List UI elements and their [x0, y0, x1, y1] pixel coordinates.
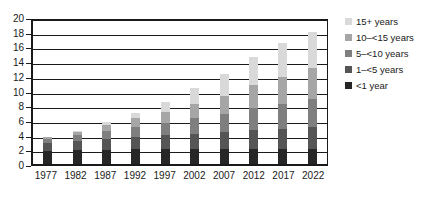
bar-segment	[190, 118, 199, 133]
bar-segment	[131, 118, 140, 126]
bar-segment	[249, 57, 258, 85]
bar-segment	[249, 130, 258, 149]
bar-segment	[249, 108, 258, 130]
bar-segment	[278, 129, 287, 150]
bar-segment	[161, 135, 170, 149]
legend-label: 5–<10 years	[356, 48, 409, 59]
bar-segment	[161, 102, 170, 112]
bar-segment	[43, 143, 52, 150]
bar-segment	[278, 104, 287, 129]
bar-segment	[308, 68, 317, 99]
bar-segment	[161, 123, 170, 135]
legend-label: 10–<15 years	[356, 32, 414, 43]
legend-item: 5–<10 years	[345, 46, 426, 61]
y-tick-label: 6	[18, 117, 24, 127]
bar-column	[43, 20, 52, 164]
bar-segment	[43, 151, 52, 164]
bar-column	[190, 20, 199, 164]
bar-column	[131, 20, 140, 164]
x-tick-label: 1997	[150, 170, 180, 182]
bar-segment	[308, 149, 317, 164]
y-tick-label: 10	[13, 88, 24, 98]
legend-swatch-icon	[345, 82, 352, 89]
x-tick-label: 2002	[180, 170, 210, 182]
bar-segment	[278, 149, 287, 164]
bar-segment	[161, 149, 170, 164]
bar-segment	[220, 132, 229, 149]
x-axis: 1977198219871992199720022007201220172022	[31, 170, 328, 182]
legend-swatch-icon	[345, 66, 352, 73]
legend-swatch-icon	[345, 18, 352, 25]
y-tick-label: 8	[18, 102, 24, 112]
bar-column	[278, 20, 287, 164]
legend-swatch-icon	[345, 34, 352, 41]
y-tick-label: 18	[13, 29, 24, 39]
legend-item: 10–<15 years	[345, 30, 426, 45]
legend-item: 15+ years	[345, 14, 426, 29]
bar-column	[249, 20, 258, 164]
bar-column	[161, 20, 170, 164]
bar-segment	[102, 139, 111, 150]
bar-segment	[161, 112, 170, 123]
x-tick-label: 2007	[209, 170, 239, 182]
bar-segment	[308, 99, 317, 127]
y-tick-label: 16	[13, 43, 24, 53]
x-tick-label: 1992	[120, 170, 150, 182]
bar-segment	[220, 114, 229, 132]
bar-segment	[190, 134, 199, 149]
bar-segment	[190, 104, 199, 119]
bar-segment	[249, 149, 258, 164]
bar-segment	[102, 131, 111, 139]
bar-segment	[220, 149, 229, 164]
bar-segment	[278, 77, 287, 104]
stacked-bar-chart: 02468101214161820 1977198219871992199720…	[0, 0, 426, 205]
bar-column	[308, 20, 317, 164]
y-tick-label: 14	[13, 58, 24, 68]
bar-segment	[131, 137, 140, 149]
bar-segment	[73, 150, 82, 164]
legend-item: 1–<5 years	[345, 62, 426, 77]
y-tick-label: 4	[18, 132, 24, 142]
y-tick-label: 2	[18, 146, 24, 156]
x-tick-label: 1977	[31, 170, 61, 182]
bar-segment	[220, 96, 229, 114]
y-tick-label: 0	[18, 161, 24, 171]
legend-swatch-icon	[345, 50, 352, 57]
y-tick-mark	[26, 166, 31, 167]
bar-segment	[102, 150, 111, 164]
bar-segment	[131, 149, 140, 164]
y-tick-label: 20	[13, 14, 24, 24]
y-axis: 02468101214161820	[0, 12, 24, 166]
bar-column	[220, 20, 229, 164]
bar-segment	[278, 43, 287, 77]
bar-segment	[308, 127, 317, 149]
bars-layer	[33, 20, 327, 164]
legend: 15+ years10–<15 years5–<10 years1–<5 yea…	[345, 14, 426, 94]
bar-segment	[190, 88, 199, 103]
bar-segment	[131, 127, 140, 137]
bar-segment	[220, 74, 229, 95]
bar-segment	[190, 149, 199, 164]
legend-item: <1 year	[345, 78, 426, 93]
legend-label: 15+ years	[356, 16, 398, 27]
bar-column	[73, 20, 82, 164]
bar-segment	[73, 141, 82, 150]
x-tick-label: 1982	[61, 170, 91, 182]
x-tick-label: 1987	[90, 170, 120, 182]
legend-label: 1–<5 years	[356, 64, 403, 75]
bar-column	[102, 20, 111, 164]
y-tick-label: 12	[13, 73, 24, 83]
bar-segment	[308, 32, 317, 69]
plot-area	[31, 19, 328, 166]
x-tick-label: 2017	[269, 170, 299, 182]
x-tick-label: 2012	[239, 170, 269, 182]
x-tick-label: 2022	[298, 170, 328, 182]
bar-segment	[249, 85, 258, 108]
legend-label: <1 year	[356, 80, 388, 91]
